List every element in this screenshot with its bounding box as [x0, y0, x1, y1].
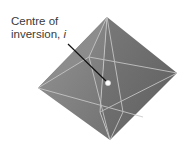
centre-of-inversion-dot: [105, 80, 110, 85]
octahedron-diagram: [0, 0, 190, 153]
